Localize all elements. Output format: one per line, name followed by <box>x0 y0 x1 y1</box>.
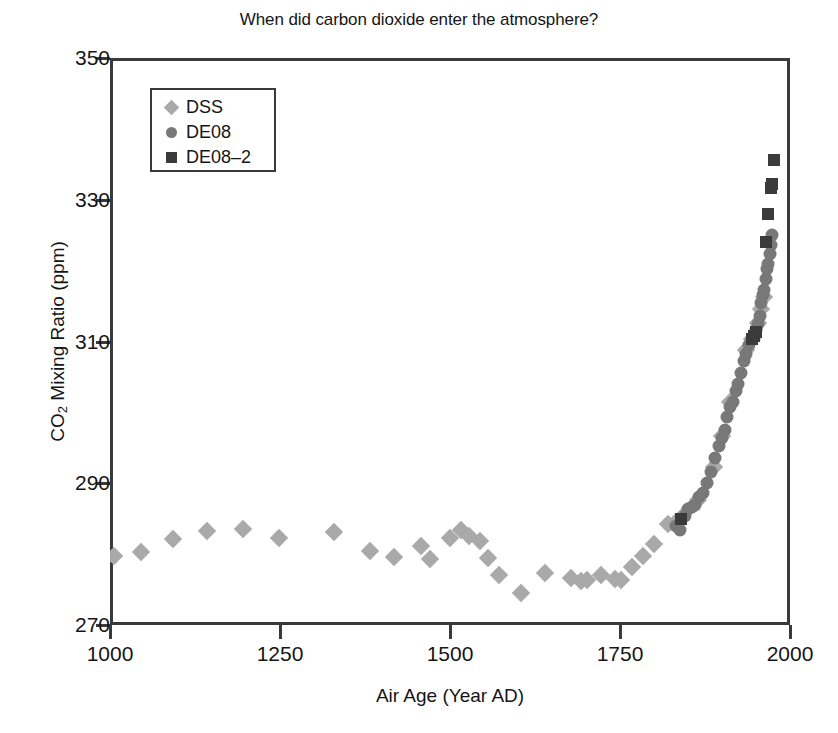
diamond-marker-icon <box>160 102 182 113</box>
chart-title: When did carbon dioxide enter the atmosp… <box>0 10 838 30</box>
y-axis-title-post: Mixing Ratio (ppm) <box>47 241 68 406</box>
legend-label-de08-2: DE08–2 <box>182 147 251 168</box>
data-point <box>760 236 772 248</box>
x-tick-mark <box>449 625 452 639</box>
data-point <box>385 548 403 566</box>
y-axis-title: CO2 Mixing Ratio (ppm) <box>47 58 70 625</box>
x-tick-label: 1750 <box>560 642 680 666</box>
x-tick-mark <box>619 625 622 639</box>
data-point <box>132 543 150 561</box>
data-point <box>479 548 497 566</box>
x-tick-mark <box>109 625 112 639</box>
legend-item-de08-2: DE08–2 <box>160 145 274 170</box>
data-point <box>735 366 748 379</box>
legend-label-de08: DE08 <box>182 122 231 143</box>
legend: DSS DE08 DE08–2 <box>150 88 276 172</box>
y-axis-title-pre: CO <box>47 413 68 442</box>
data-point <box>110 546 123 564</box>
data-point <box>754 309 767 322</box>
data-point <box>766 178 778 190</box>
data-point <box>536 563 554 581</box>
data-point <box>673 524 686 537</box>
data-point <box>709 451 722 464</box>
co2-scatter-figure: When did carbon dioxide enter the atmosp… <box>0 0 838 733</box>
data-point <box>768 154 780 166</box>
data-point <box>197 522 215 540</box>
data-point <box>234 520 252 538</box>
legend-item-de08: DE08 <box>160 120 274 145</box>
legend-label-dss: DSS <box>182 97 223 118</box>
data-point <box>732 378 745 391</box>
x-tick-label: 2000 <box>730 642 838 666</box>
data-point <box>490 565 508 583</box>
y-axis-title-subscript: 2 <box>55 406 70 413</box>
x-tick-label: 1500 <box>390 642 510 666</box>
x-tick-label: 1000 <box>50 642 170 666</box>
circle-marker-icon <box>160 127 182 138</box>
x-tick-mark <box>789 625 792 639</box>
legend-item-dss: DSS <box>160 95 274 120</box>
data-point <box>750 326 762 338</box>
data-point <box>675 513 687 525</box>
data-point <box>512 584 530 602</box>
data-point <box>163 529 181 547</box>
data-point <box>705 465 718 478</box>
x-tick-mark <box>279 625 282 639</box>
data-point <box>325 523 343 541</box>
square-marker-icon <box>160 152 182 163</box>
x-tick-label: 1250 <box>220 642 340 666</box>
data-point <box>718 424 731 437</box>
data-point <box>361 542 379 560</box>
data-point <box>701 477 714 490</box>
data-point <box>269 529 287 547</box>
x-axis-title: Air Age (Year AD) <box>110 685 790 707</box>
data-point <box>762 208 774 220</box>
